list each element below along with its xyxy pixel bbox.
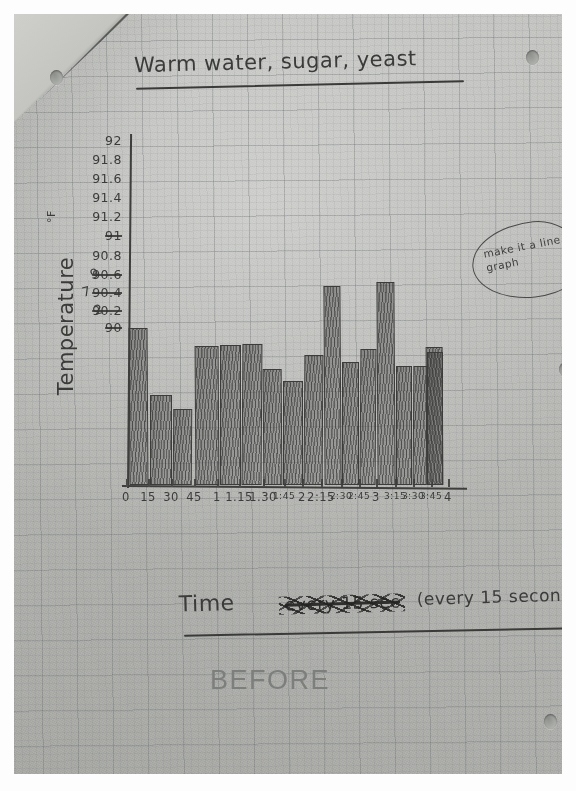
printed-caption: BEFORE	[210, 665, 330, 696]
bar	[304, 355, 324, 485]
x-axis-label-time: Time	[179, 590, 236, 617]
scribble-out-mark	[279, 593, 405, 615]
bar	[342, 362, 359, 485]
bar	[242, 344, 263, 485]
bar-series	[14, 14, 562, 774]
bar	[150, 395, 172, 485]
bar	[220, 345, 241, 485]
bar	[323, 286, 341, 485]
x-axis-label-paren: (every 15 second	[417, 585, 562, 609]
bar	[173, 409, 192, 485]
paper-photo: Warm water, sugar, yeast Temperature °F …	[14, 14, 562, 774]
teacher-note: make it a line graph	[472, 222, 562, 298]
bar	[396, 366, 412, 485]
bar	[263, 369, 283, 485]
bar	[129, 328, 149, 485]
bar	[283, 381, 303, 485]
bar	[195, 346, 220, 485]
bar	[360, 349, 377, 485]
bar	[427, 352, 443, 485]
screenshot-root: Warm water, sugar, yeast Temperature °F …	[0, 0, 576, 791]
bar	[376, 282, 395, 485]
